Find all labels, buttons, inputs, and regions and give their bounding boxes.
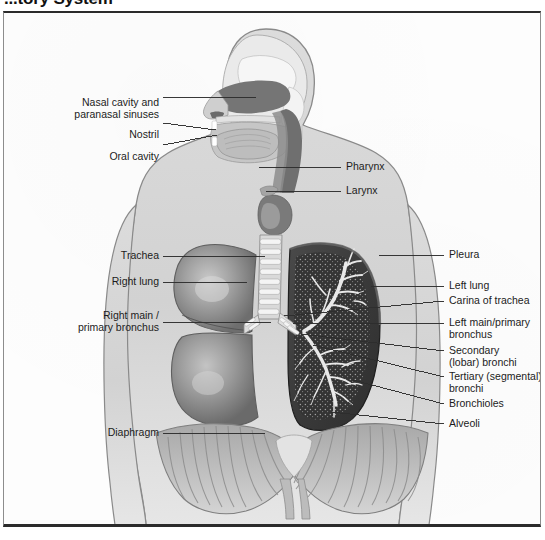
label-right-lung: Right lung bbox=[37, 276, 159, 288]
label-larynx: Larynx bbox=[346, 185, 378, 197]
label-alveoli: Alveoli bbox=[449, 418, 480, 430]
label-pharynx: Pharynx bbox=[346, 161, 385, 173]
label-right-main-bronchus: Right main / primary bronchus bbox=[19, 310, 159, 333]
trachea bbox=[258, 235, 282, 319]
label-tertiary-bronchi: Tertiary (segmental) bronchi bbox=[449, 371, 541, 394]
figure-frame: Nasal cavity and paranasal sinuses Nostr… bbox=[3, 11, 541, 527]
respiratory-system-figure: ...tory System bbox=[0, 0, 545, 540]
label-nasal-cavity: Nasal cavity and paranasal sinuses bbox=[37, 97, 159, 120]
label-nostril: Nostril bbox=[37, 129, 159, 141]
label-secondary-bronchi: Secondary (lobar) bronchi bbox=[449, 345, 517, 368]
label-left-main-bronchus: Left main/primary bronchus bbox=[449, 317, 530, 340]
label-pleura: Pleura bbox=[449, 249, 479, 261]
label-diaphragm: Diaphragm bbox=[37, 427, 159, 439]
label-oral-cavity: Oral cavity bbox=[37, 151, 159, 163]
label-carina-of-trachea: Carina of trachea bbox=[449, 295, 530, 307]
label-left-lung: Left lung bbox=[449, 280, 489, 292]
page-title: ...tory System bbox=[4, 0, 113, 9]
diaphragm bbox=[156, 424, 428, 519]
label-bronchioles: Bronchioles bbox=[449, 398, 504, 410]
label-trachea: Trachea bbox=[37, 250, 159, 262]
anatomy-illustration bbox=[4, 13, 541, 527]
